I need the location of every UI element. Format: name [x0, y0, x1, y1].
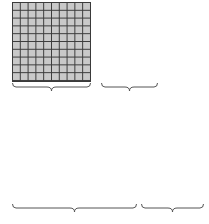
brace-icon — [12, 83, 91, 92]
brace-icon — [12, 204, 137, 213]
brace-icon — [141, 204, 204, 213]
hundred-block — [12, 2, 91, 82]
brace-icon — [101, 83, 158, 92]
diagram — [0, 0, 209, 224]
